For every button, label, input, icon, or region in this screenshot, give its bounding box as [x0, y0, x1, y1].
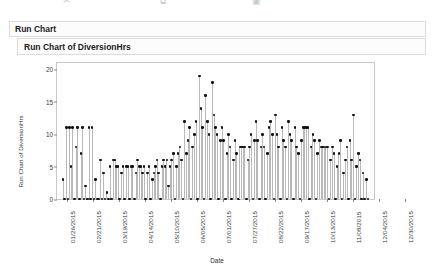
- data-stem: [267, 154, 268, 199]
- data-stem: [338, 154, 339, 199]
- paste-icon[interactable]: ▣: [252, 0, 261, 7]
- data-stem: [228, 134, 229, 199]
- data-stem: [205, 95, 206, 199]
- data-point: [216, 133, 219, 136]
- data-stem: [116, 167, 117, 199]
- data-stem: [257, 141, 258, 199]
- data-point: [195, 120, 198, 123]
- data-stem: [277, 134, 278, 199]
- data-stem: [118, 167, 119, 199]
- data-stem: [66, 128, 67, 199]
- data-point: [367, 198, 370, 201]
- data-stem: [63, 180, 64, 199]
- x-axis-label: Date: [0, 257, 434, 264]
- data-point: [365, 178, 368, 181]
- data-stem: [215, 128, 216, 199]
- data-stem: [241, 147, 242, 199]
- data-stem: [179, 147, 180, 199]
- data-point: [214, 126, 217, 129]
- x-axis-tick-label: 02/21/2015: [95, 211, 102, 243]
- data-stem: [188, 141, 189, 199]
- data-stem: [76, 147, 77, 199]
- x-axis-tick-label: 11/08/2015: [355, 211, 362, 243]
- data-stem: [278, 147, 279, 199]
- data-stem: [325, 147, 326, 199]
- data-stem: [176, 167, 177, 199]
- x-axis-tick-label: 10/13/2015: [329, 211, 336, 243]
- x-axis-tick-label: 08/22/2015: [277, 211, 284, 243]
- data-point: [349, 139, 352, 142]
- data-stem: [69, 128, 70, 199]
- data-point: [290, 139, 293, 142]
- data-stem: [223, 141, 224, 199]
- data-stem: [149, 167, 150, 199]
- data-stem: [165, 167, 166, 199]
- data-stem: [256, 121, 257, 199]
- data-point: [88, 126, 91, 129]
- data-point: [188, 126, 191, 129]
- data-stem: [139, 167, 140, 199]
- data-stem: [131, 167, 132, 199]
- data-point: [294, 126, 297, 129]
- data-point: [287, 120, 290, 123]
- y-axis-label: Run Chart of DiversionHrs: [17, 102, 24, 202]
- data-point: [313, 139, 316, 142]
- run-chart-page: ✂⧉▣ Run Chart Run Chart of DiversionHrs …: [0, 0, 434, 273]
- data-stem: [201, 108, 202, 199]
- data-stem: [92, 128, 93, 199]
- data-point: [227, 133, 230, 136]
- y-axis-tick: 5: [49, 163, 57, 170]
- data-point: [261, 133, 264, 136]
- data-point: [256, 139, 259, 142]
- data-stem: [121, 173, 122, 199]
- data-stem: [236, 154, 237, 199]
- data-stem: [158, 173, 159, 199]
- data-stem: [186, 154, 187, 199]
- chart-container: Run Chart of DiversionHrs 05101520 Date …: [0, 56, 434, 273]
- data-point: [131, 165, 134, 168]
- x-axis-tick: [405, 199, 406, 202]
- data-stem: [199, 76, 200, 199]
- data-point: [148, 165, 151, 168]
- data-stem: [178, 154, 179, 199]
- x-axis-tick-label: 12/04/2015: [381, 211, 388, 243]
- data-point: [143, 165, 146, 168]
- data-stem: [173, 154, 174, 199]
- data-point: [81, 126, 84, 129]
- data-point: [106, 191, 109, 194]
- data-stem: [233, 160, 234, 199]
- x-axis-tick-label: 12/30/2015: [407, 211, 414, 243]
- subsection-header-label: Run Chart of DiversionHrs: [24, 42, 131, 52]
- cut-icon[interactable]: ✂: [63, 0, 71, 7]
- x-axis-tick-label: 07/27/2015: [251, 211, 258, 243]
- data-stem: [350, 141, 351, 199]
- y-axis-tick: 0: [49, 196, 57, 203]
- data-stem: [311, 147, 312, 199]
- y-axis-tick: 15: [46, 98, 57, 105]
- data-stem: [126, 167, 127, 199]
- data-point: [109, 165, 112, 168]
- copy-icon[interactable]: ⧉: [160, 0, 166, 7]
- data-stem: [317, 154, 318, 199]
- data-stem: [347, 147, 348, 199]
- data-stem: [264, 147, 265, 199]
- data-stem: [72, 128, 73, 199]
- data-point: [333, 152, 336, 155]
- data-stem: [202, 128, 203, 199]
- data-point: [198, 75, 201, 78]
- data-stem: [366, 180, 367, 199]
- data-stem: [81, 154, 82, 199]
- data-point: [200, 107, 203, 110]
- data-stem: [290, 134, 291, 199]
- data-stem: [303, 128, 304, 199]
- data-stem: [254, 141, 255, 199]
- data-point: [208, 133, 211, 136]
- data-stem: [136, 173, 137, 199]
- data-point: [117, 165, 120, 168]
- data-stem: [123, 167, 124, 199]
- data-point: [94, 178, 97, 181]
- data-point: [211, 81, 214, 84]
- data-stem: [272, 134, 273, 199]
- data-stem: [275, 115, 276, 199]
- x-axis-tick-label: 06/05/2015: [199, 211, 206, 243]
